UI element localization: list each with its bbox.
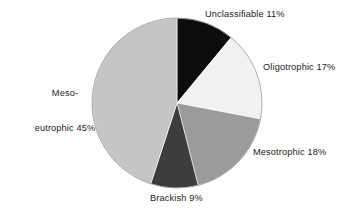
slice-label-oligotrophic: Oligotrophic 17% [263,62,335,74]
slice-label-meso-eutrophic: Meso- eutrophic 45% [29,65,101,157]
slice-label-brackish: Brackish 9% [150,193,203,205]
slice-label-meso-eutrophic-line1: Meso- [29,88,101,100]
slice-label-mesotrophic: Mesotrophic 18% [253,147,326,159]
slice-label-unclassifiable: Unclassifiable 11% [205,9,285,21]
pie-slice-group [92,18,262,188]
pie-chart: Unclassifiable 11% Oligotrophic 17% Meso… [0,0,360,215]
slice-label-meso-eutrophic-line2: eutrophic 45% [29,123,101,135]
